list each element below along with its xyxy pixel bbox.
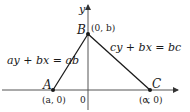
point-b-coord: (0, b) [91,23,115,33]
point-a-coord: (a, 0) [42,95,66,105]
y-axis-label: y [78,3,86,16]
point-a-name: A [42,78,52,92]
triangle-diagram: y x 0 A B C (a, 0) (0, b) (c, 0) ay + bx… [0,0,190,112]
point-c-coord: (c, 0) [139,95,163,105]
origin-label: 0 [80,95,86,105]
equation-ab: ay + bx = ab [7,54,79,67]
point-b-name: B [76,23,86,37]
point-b [86,32,90,36]
point-c-name: C [152,77,161,91]
equation-bc: cy + bx = bc [110,41,181,54]
